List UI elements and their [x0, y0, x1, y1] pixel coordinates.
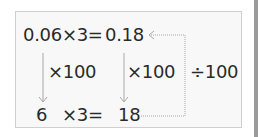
- left-multiplier-label: ×100: [48, 62, 96, 82]
- middle-multiplier-label: ×100: [127, 62, 175, 82]
- top-equation-result: 0.18: [105, 25, 144, 45]
- bottom-equation-left: 6: [36, 105, 47, 125]
- scrollbar[interactable]: [254, 0, 258, 137]
- right-divisor-label: ÷100: [190, 62, 238, 82]
- bottom-equation-op: ×3=: [62, 105, 103, 125]
- top-equation-left: 0.06×3=: [23, 25, 103, 45]
- down-arrow-icon: [39, 53, 47, 102]
- bottom-equation-result: 18: [118, 105, 140, 125]
